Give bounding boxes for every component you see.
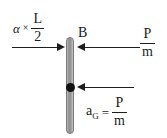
acceleration-symbol: aG (86, 104, 99, 121)
acceleration-equation-label: aG = P m (86, 96, 127, 128)
fraction-denominator-m: m (112, 114, 127, 129)
fraction-numerator-L: L (31, 12, 44, 27)
impulse-over-mass-label: P m (140, 27, 155, 59)
acceleration-subscript: G (92, 111, 99, 121)
point-b-arrow-shaft (84, 47, 140, 48)
fraction-numerator-P: P (114, 96, 126, 111)
acceleration-arrow-head-icon (77, 83, 85, 91)
equals-symbol: = (102, 106, 109, 119)
fraction-numerator-P: P (142, 27, 154, 42)
fraction-denominator-2: 2 (32, 30, 43, 45)
point-b-arrow-head-icon (77, 43, 85, 51)
physics-diagram: α × L 2 B P m aG = P m (0, 0, 167, 138)
alpha-symbol: α (13, 22, 20, 35)
half-length-fraction: L 2 (31, 12, 44, 44)
alpha-arrow-shaft (12, 47, 60, 48)
fraction-denominator-m: m (140, 45, 155, 60)
acceleration-arrow-shaft (84, 87, 134, 88)
multiplication-symbol: × (22, 23, 30, 33)
center-of-mass-dot (66, 83, 75, 92)
point-b-label: B (78, 26, 87, 40)
alpha-times-half-length-label: α × L 2 (13, 12, 44, 44)
alpha-arrow-head-icon (57, 43, 65, 51)
acceleration-fraction: P m (112, 96, 127, 128)
impulse-over-mass-fraction: P m (140, 27, 155, 59)
